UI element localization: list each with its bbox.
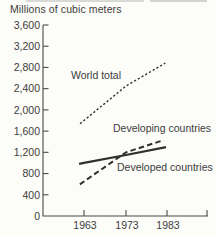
axis-spine: [43, 25, 208, 216]
y-axis-tick-label: 0: [34, 210, 40, 222]
series-label-developing-countries: Developing countries: [113, 122, 211, 134]
y-axis-tick-label: 2,000: [14, 104, 40, 116]
series-label-developed-countries: Developed countries: [117, 161, 213, 173]
y-axis-tick-label: 1,200: [14, 146, 40, 158]
y-axis-tick-label: 1,600: [14, 125, 40, 137]
x-axis-tick-label: 1973: [115, 219, 139, 231]
y-axis-tick-label: 3,600: [14, 19, 40, 31]
line-chart: 04008001,2001,6002,0002,4002,8003,2003,6…: [0, 0, 216, 236]
x-axis-tick-label: 1963: [73, 219, 97, 231]
y-axis-tick-label: 2,800: [14, 61, 40, 73]
series-label-world-total: World total: [71, 69, 121, 81]
x-axis-tick-label: 1983: [156, 219, 180, 231]
chart-figure: Millions of cubic meters 04008001,2001,6…: [0, 0, 216, 236]
y-axis-tick-label: 800: [22, 167, 40, 179]
y-axis-tick-label: 2,400: [14, 82, 40, 94]
y-axis-tick-label: 3,200: [14, 40, 40, 52]
y-axis-tick-label: 400: [22, 189, 40, 201]
